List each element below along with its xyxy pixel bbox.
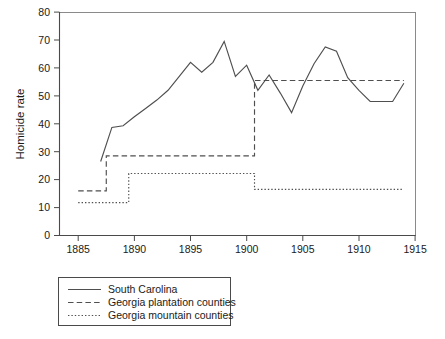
x-tick-label-1895: 1895 xyxy=(179,243,203,255)
x-tick-label-1905: 1905 xyxy=(291,243,315,255)
legend-label-georgia-plantation-counties: Georgia plantation counties xyxy=(108,296,236,308)
series-line-georgia-plantation-counties xyxy=(78,81,404,191)
y-tick-label-70: 70 xyxy=(38,34,50,46)
x-axis-tick-labels: 1885 1890 1895 1900 1905 1910 1915 xyxy=(67,243,427,255)
y-tick-label-40: 40 xyxy=(38,118,50,130)
x-axis-ticks xyxy=(78,236,415,242)
y-axis-ticks xyxy=(54,12,60,235)
chart-legend: South Carolina Georgia plantation counti… xyxy=(59,278,236,326)
y-tick-label-30: 30 xyxy=(38,146,50,158)
x-tick-label-1910: 1910 xyxy=(347,243,371,255)
y-tick-label-10: 10 xyxy=(38,201,50,213)
y-axis-title: Homicide rate xyxy=(14,89,26,160)
legend-label-south-carolina: South Carolina xyxy=(108,283,178,295)
x-tick-label-1890: 1890 xyxy=(123,243,147,255)
y-tick-label-50: 50 xyxy=(38,90,50,102)
x-tick-label-1900: 1900 xyxy=(235,243,259,255)
y-tick-label-80: 80 xyxy=(38,6,50,18)
y-tick-label-60: 60 xyxy=(38,62,50,74)
y-axis-tick-labels: 0 10 20 30 40 50 60 70 80 xyxy=(38,6,50,241)
x-tick-label-1885: 1885 xyxy=(67,243,91,255)
y-tick-label-20: 20 xyxy=(38,173,50,185)
chart-svg: 0 10 20 30 40 50 60 70 80 1885 1890 1895… xyxy=(0,0,445,339)
homicide-rate-chart-figure: 0 10 20 30 40 50 60 70 80 1885 1890 1895… xyxy=(0,0,445,339)
y-tick-label-0: 0 xyxy=(44,229,50,241)
series-line-georgia-mountain-counties xyxy=(78,174,404,203)
x-tick-label-1915: 1915 xyxy=(403,243,427,255)
legend-label-georgia-mountain-counties: Georgia mountain counties xyxy=(108,309,234,321)
series-line-south-carolina xyxy=(101,41,404,161)
